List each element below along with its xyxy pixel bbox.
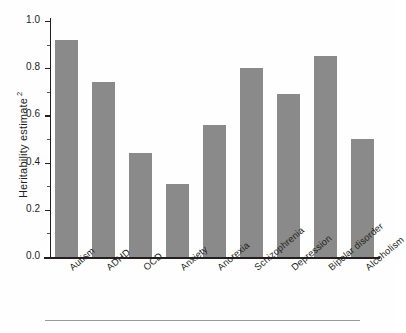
y-tick-0.2: 0.2: [45, 210, 50, 211]
y-tick-label: 0.6: [26, 108, 40, 120]
y-tick-minor: [47, 233, 50, 234]
y-tick-1.0: 1.0: [45, 21, 50, 22]
bar: [240, 68, 263, 257]
y-tick-label: 1.0: [26, 14, 40, 26]
y-tick-minor: [47, 139, 50, 140]
y-tick-0.0: 0.0: [45, 257, 50, 258]
bar: [314, 56, 337, 257]
y-tick-label: 0.8: [26, 61, 40, 73]
x-axis-line: [44, 257, 380, 259]
bar: [92, 82, 115, 257]
y-tick-0.8: 0.8: [45, 68, 50, 69]
y-tick-minor: [47, 92, 50, 93]
y-tick-label: 0.0: [26, 250, 40, 262]
y-axis-title-superscript: 2: [15, 92, 24, 96]
bar: [203, 125, 226, 257]
bar: [166, 184, 189, 257]
bottom-divider-rule: [45, 320, 360, 321]
y-tick-minor: [47, 186, 50, 187]
y-tick-0.6: 0.6: [45, 115, 50, 116]
plot-area: 0.00.20.40.60.81.0 AutismADHDOCDAnxietyA…: [50, 21, 380, 257]
y-tick-0.4: 0.4: [45, 163, 50, 164]
y-axis-line: [50, 18, 51, 258]
y-tick-minor: [47, 45, 50, 46]
y-tick-label: 0.2: [26, 203, 40, 215]
bar: [55, 40, 78, 257]
y-tick-label: 0.4: [26, 156, 40, 168]
bar: [129, 153, 152, 257]
